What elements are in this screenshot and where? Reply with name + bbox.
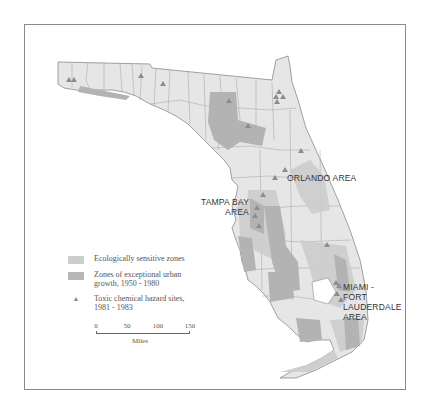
legend-item-urban-growth: Zones of exceptional urban growth, 1950 … [68, 270, 238, 288]
label-miami-line4: AREA [343, 312, 402, 322]
label-miami-line3: LAUDERDALE [343, 302, 402, 312]
scale-tick-0: 0 [94, 322, 98, 330]
scale-tick-50: 50 [124, 322, 131, 330]
label-tampa-line1: TAMPA BAY [193, 197, 249, 207]
scale-line [96, 333, 190, 334]
label-tampa-bay: TAMPA BAY AREA [193, 197, 249, 217]
scale-tick-150: 150 [185, 322, 196, 330]
map-legend: Ecologically sensitive zones Zones of ex… [68, 254, 238, 318]
legend-item-hazard-sites: ▲ Toxic chemical hazard sites, 1981 - 19… [68, 294, 238, 312]
legend-label: Ecologically sensitive zones [94, 254, 185, 263]
swatch-ecologically-sensitive [68, 256, 84, 264]
label-tampa-line2: AREA [193, 207, 249, 217]
scale-tick-mark [96, 331, 97, 334]
legend-item-ecological: Ecologically sensitive zones [68, 254, 238, 264]
legend-label: Zones of exceptional urban growth, 1950 … [94, 270, 189, 288]
label-miami-line2: FORT [343, 292, 402, 302]
scale-bar: 0 50 100 150 Miles [88, 322, 198, 362]
label-miami-line1: MIAMI - [343, 282, 402, 292]
label-orlando-area: ORLANDO AREA [287, 173, 356, 183]
scale-tick-100: 100 [153, 322, 164, 330]
triangle-icon: ▲ [68, 294, 84, 304]
swatch-urban-growth [68, 272, 84, 280]
label-miami-fort-lauderdale: MIAMI - FORT LAUDERDALE AREA [343, 282, 402, 322]
scale-tick-mark [189, 331, 190, 334]
scale-unit: Miles [132, 337, 148, 345]
legend-label: Toxic chemical hazard sites, 1981 - 1983 [94, 294, 192, 312]
